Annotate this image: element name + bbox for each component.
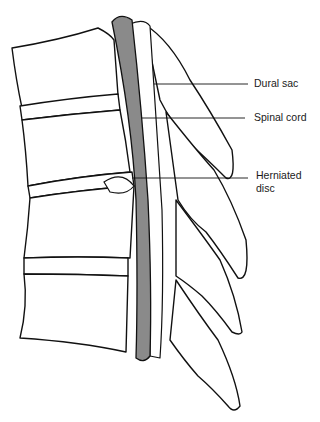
vertebra-4 xyxy=(20,274,128,352)
label-dural-sac: Dural sac xyxy=(254,77,298,89)
vertebra-3 xyxy=(24,186,134,258)
spine-illustration xyxy=(0,0,320,422)
label-herniated-disc-line2: disc xyxy=(256,182,275,194)
disc-3 xyxy=(24,257,128,276)
label-spinal-cord: Spinal cord xyxy=(254,111,307,123)
label-herniated-disc-line1: Herniated xyxy=(256,169,302,181)
